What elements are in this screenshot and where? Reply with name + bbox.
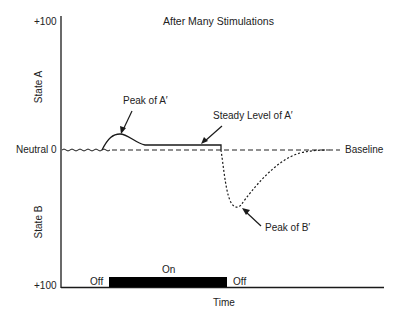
stimulus-on-label: On: [162, 265, 175, 275]
chart-title: After Many Stimulations: [163, 16, 274, 27]
y-label-state-a: State A: [34, 71, 44, 103]
steady-a-arrowhead: [201, 137, 208, 144]
y-tick-bottom: +100: [34, 281, 57, 291]
steady-a-label: Steady Level of A′: [213, 111, 293, 121]
peak-a-label: Peak of A′: [123, 96, 168, 106]
peak-a-arrow: [123, 111, 132, 130]
y-label-state-b: State B: [34, 206, 44, 239]
stimulus-off-after: Off: [233, 277, 246, 287]
x-axis-label: Time: [213, 298, 235, 308]
stimulus-off-before: Off: [90, 277, 103, 287]
y-tick-top: +100: [34, 17, 57, 27]
opponent-process-diagram: [0, 0, 399, 321]
stimulus-on-bar: [109, 277, 227, 287]
b-prime-curve: [221, 150, 330, 207]
peak-b-arrow: [246, 212, 261, 226]
peak-b-label: Peak of B′: [265, 223, 310, 233]
y-tick-neutral: Neutral 0: [16, 145, 57, 155]
peak-a-arrowhead: [120, 126, 126, 134]
baseline-label: Baseline: [345, 145, 383, 155]
steady-a-arrow: [205, 126, 222, 141]
